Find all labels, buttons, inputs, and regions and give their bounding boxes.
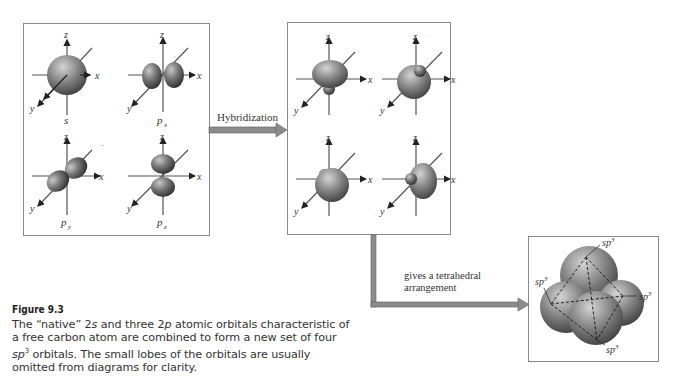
figure-caption: The “native” 2s and three 2p atomic orbi… [12, 318, 352, 374]
sp3-label-top: sp3 [602, 236, 615, 248]
tetrahedral-label-line2: arrangement [404, 282, 481, 294]
caption-italic-p: p [165, 318, 172, 331]
pz-sub: z [163, 223, 167, 231]
z-label: z [159, 131, 164, 142]
y-label: y [379, 105, 385, 116]
hybrid-orbital-2: z x y [379, 31, 456, 116]
hybrid-orbital-3: z x y [293, 132, 373, 217]
orbital-px: z x y p x [126, 29, 202, 129]
hybridization-arrow [209, 123, 287, 137]
py-sub: y [67, 223, 72, 231]
x-label: x [98, 171, 104, 182]
z-label: z [159, 29, 164, 40]
y-label: y [29, 103, 35, 114]
x-label: x [367, 74, 373, 85]
z-label: z [412, 132, 417, 143]
x-label: x [450, 174, 456, 185]
tetrahedral-model: sp3 sp3 sp3 sp3 [535, 236, 652, 355]
y-label: y [293, 105, 299, 116]
sp3-label-bottom: sp3 [606, 343, 619, 355]
orbital-s: z x y s [29, 29, 100, 126]
px-label: p [156, 114, 163, 126]
s-label: s [64, 114, 68, 126]
hybrid-orbital-4: z x y [379, 132, 456, 217]
y-label: y [126, 103, 132, 114]
y-label: y [29, 203, 35, 214]
x-label: x [94, 70, 100, 81]
caption-italic-sp: sp [12, 348, 25, 361]
x-label: x [196, 70, 202, 81]
hybridization-label: Hybridization [217, 111, 279, 123]
y-label: y [293, 206, 299, 217]
orbital-py: z x y p y [29, 131, 104, 231]
orbital-pz: z x y p z [126, 131, 202, 231]
x-label: x [450, 74, 456, 85]
z-label: z [63, 131, 68, 142]
sp3-label-right: sp3 [639, 290, 652, 302]
py-label: p [60, 216, 67, 228]
y-label: y [379, 206, 385, 217]
z-label: z [412, 31, 417, 42]
z-label: z [325, 31, 330, 42]
caption-text: The “native” 2 [12, 318, 92, 331]
caption-text: and three 2 [97, 318, 164, 331]
z-label: z [325, 132, 330, 143]
figure-number: Figure 9.3 [12, 303, 64, 316]
tetrahedral-label-line1: gives a tetrahedral [404, 270, 481, 282]
x-label: x [367, 174, 373, 185]
tetrahedral-arrow-label: gives a tetrahedral arrangement [404, 270, 481, 294]
y-label: y [126, 203, 132, 214]
x-label: x [196, 171, 202, 182]
hybrid-orbital-1: z x y [293, 31, 373, 116]
px-sub: x [163, 121, 168, 129]
sp3-label-left: sp3 [535, 275, 548, 287]
caption-text: orbitals. The small lobes of the orbital… [12, 348, 310, 374]
pz-label: p [156, 216, 163, 228]
stray-mark: - [101, 141, 104, 150]
z-label: z [63, 29, 68, 40]
